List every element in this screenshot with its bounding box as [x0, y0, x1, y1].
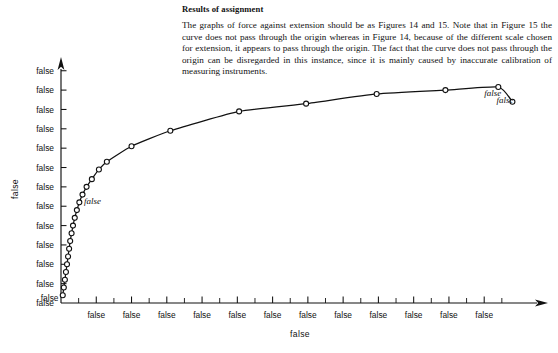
- svg-text:false[interactable]: false: [36, 221, 54, 231]
- svg-text:false[interactable]: false: [36, 85, 54, 95]
- svg-text:false[interactable]: false: [36, 143, 54, 153]
- svg-text:false[interactable]: false: [123, 310, 141, 320]
- svg-text:false[interactable]: false: [10, 179, 20, 199]
- svg-text:false[interactable]: false: [36, 66, 54, 76]
- svg-text:false[interactable]: false: [497, 95, 514, 105]
- svg-text:false[interactable]: false: [264, 310, 282, 320]
- section-heading: Results of assignment: [182, 4, 552, 15]
- svg-text:false[interactable]: false: [193, 310, 211, 320]
- svg-text:false[interactable]: false: [36, 201, 54, 211]
- svg-text:false[interactable]: false: [405, 310, 423, 320]
- svg-text:false[interactable]: false: [84, 196, 101, 206]
- svg-text:false[interactable]: false: [36, 259, 54, 269]
- page-footer-cropped: [20, 349, 440, 353]
- svg-text:false[interactable]: false: [41, 293, 59, 303]
- svg-text:false[interactable]: false: [36, 240, 54, 250]
- svg-text:false[interactable]: false: [36, 279, 54, 289]
- chart-canvas: falsefalsefalsefalsefalsefalsefalsefalse…: [0, 50, 558, 353]
- svg-text:false[interactable]: false: [158, 310, 176, 320]
- svg-text:false[interactable]: false: [36, 124, 54, 134]
- svg-text:false[interactable]: false: [36, 182, 54, 192]
- svg-text:false[interactable]: false: [334, 310, 352, 320]
- svg-text:false[interactable]: false: [290, 329, 310, 339]
- force-extension-chart: falsefalsefalsefalsefalsefalsefalsefalse…: [0, 50, 558, 353]
- svg-text:false[interactable]: false: [36, 105, 54, 115]
- svg-text:false[interactable]: false: [299, 310, 317, 320]
- figure-page: Results of assignment The graphs of forc…: [0, 0, 558, 353]
- svg-text:false[interactable]: false: [87, 310, 105, 320]
- svg-text:false[interactable]: false: [440, 310, 458, 320]
- svg-text:false[interactable]: false: [228, 310, 246, 320]
- svg-text:false[interactable]: false: [475, 310, 493, 320]
- svg-text:false[interactable]: false: [36, 163, 54, 173]
- svg-text:false[interactable]: false: [370, 310, 388, 320]
